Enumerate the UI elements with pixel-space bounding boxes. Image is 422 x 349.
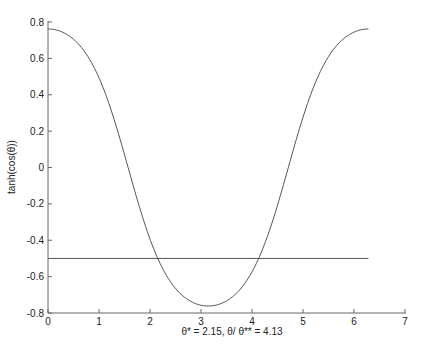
x-tick-label: 5 [300, 316, 306, 327]
axes [48, 21, 406, 313]
y-tick-label: -0.8 [27, 308, 45, 319]
y-tick-label: -0.6 [27, 271, 45, 282]
plot-lines [48, 29, 368, 306]
x-tick-label: 6 [351, 316, 357, 327]
chart: 01234567 0.80.60.40.20-0.2-0.4-0.6-0.8 t… [0, 0, 422, 349]
y-tick-label: 0 [38, 162, 44, 173]
y-tick-label: -0.2 [27, 198, 45, 209]
x-tick-label: 7 [402, 316, 408, 327]
y-tick-label: 0.4 [30, 89, 44, 100]
y-axis-label: tanh(cos(θ)) [6, 140, 17, 194]
x-axis-label: θ* = 2.15, θ/ θ** = 4.13 [181, 326, 283, 337]
y-tick-label: 0.6 [30, 53, 44, 64]
x-ticks: 01234567 [45, 309, 408, 327]
x-tick-label: 0 [45, 316, 51, 327]
x-tick-label: 1 [96, 316, 102, 327]
curve-tanh-cos [48, 29, 368, 306]
y-tick-label: 0.2 [30, 126, 44, 137]
y-tick-label: -0.4 [27, 235, 45, 246]
y-tick-label: 0.8 [30, 17, 44, 28]
x-tick-label: 2 [147, 316, 153, 327]
